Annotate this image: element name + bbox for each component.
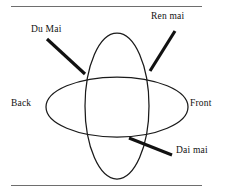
label-back: Back [11, 99, 31, 109]
label-du-mai: Du Mai [31, 25, 62, 35]
leader-ren-mai [150, 31, 175, 71]
horizontal-belt-ellipse [46, 77, 188, 137]
label-dai-mai: Dai mai [176, 146, 208, 156]
figure-container: Du Mai Ren mai Back Front Dai mai [0, 0, 230, 193]
label-front: Front [190, 99, 212, 109]
leader-dai-mai [129, 138, 172, 155]
label-ren-mai: Ren mai [151, 12, 184, 22]
vertical-meridian-ellipse [85, 33, 149, 179]
leader-du-mai [47, 39, 85, 74]
